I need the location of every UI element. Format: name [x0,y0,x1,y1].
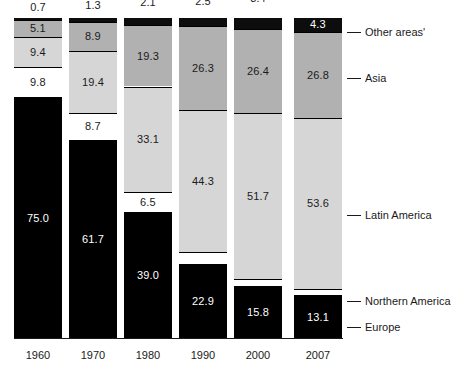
segment-latin-america-1970: 19.4 [69,51,117,113]
value-label-latin-america-2000: 51.7 [247,191,269,202]
value-label-europe-2007: 13.1 [307,312,329,323]
legend-label-2: Latin America [365,210,432,221]
segment-latin-america-1990: 44.3 [179,110,227,252]
segment-northern-america-2000 [234,279,282,288]
legend-label-3: Northern America [365,296,451,307]
segment-asia-1970: 8.9 [69,22,117,50]
segment-asia-1960: 5.1 [14,20,62,36]
legend-leader-line-2 [347,215,361,216]
x-axis-line [14,338,343,339]
segment-northern-america-2007 [294,289,342,296]
segment-latin-america-2007: 53.6 [294,118,342,290]
segment-asia-1980: 19.3 [124,25,172,87]
value-label-europe-1980: 39.0 [137,270,159,281]
segment-europe-1970: 61.7 [69,141,117,338]
value-label-asia-1990: 26.3 [192,63,214,74]
legend-label-4: Europe [365,322,400,333]
segment-other-areas-2000 [234,18,282,29]
segment-europe-1980: 39.0 [124,213,172,338]
segment-asia-2007: 26.8 [294,32,342,118]
value-label-latin-america-1970: 19.4 [82,77,104,88]
value-label-latin-america-1960: 9.4 [30,47,46,58]
segment-asia-1990: 26.3 [179,26,227,110]
segment-northern-america-1960: 9.8 [14,67,62,98]
segment-latin-america-2000: 51.7 [234,113,282,278]
legend-label-0: Other areas' [365,27,425,38]
bar-2007: 13.153.626.84.3 [294,18,342,338]
segment-asia-2000: 26.4 [234,29,282,113]
legend-leader-line-4 [347,327,361,328]
segment-other-areas-2007: 4.3 [294,18,342,32]
value-label-latin-america-1980: 33.1 [137,134,159,145]
value-label-asia-2007: 26.8 [307,70,329,81]
x-axis-tick-label-1990: 1990 [179,350,227,361]
x-axis-tick-label-1970: 1970 [69,350,117,361]
segment-europe-2000: 15.8 [234,287,282,338]
value-label-asia-1970: 8.9 [85,31,101,42]
value-label-europe-1970: 61.7 [82,234,104,245]
x-axis-tick-label-2007: 2007 [294,350,342,361]
segment-other-areas-1960 [14,18,62,20]
segment-europe-1960: 75.0 [14,98,62,338]
bar-1980: 39.06.533.119.3 [124,18,172,338]
value-label-other-areas-1970: 1.3 [69,0,117,11]
segment-latin-america-1960: 9.4 [14,37,62,67]
value-label-asia-1960: 5.1 [30,23,46,34]
segment-other-areas-1970 [69,18,117,22]
segment-europe-2007: 13.1 [294,296,342,338]
segment-latin-america-1980: 33.1 [124,87,172,193]
segment-other-areas-1980 [124,18,172,25]
segment-northern-america-1980: 6.5 [124,192,172,213]
value-label-latin-america-1990: 44.3 [192,176,214,187]
segment-northern-america-1990 [179,252,227,265]
legend-leader-line-0 [347,32,361,33]
bar-2000: 15.851.726.4 [234,18,282,338]
value-label-other-areas-1960: 0.7 [14,2,62,13]
legend-leader-line-3 [347,301,361,302]
value-label-europe-1990: 22.9 [192,296,214,307]
value-label-northern-america-1960: 9.8 [30,77,46,88]
value-label-asia-1980: 19.3 [137,51,159,62]
value-label-other-areas-1990: 2.5 [179,0,227,7]
value-label-other-areas-2007: 4.3 [310,19,326,30]
bar-1990: 22.944.326.3 [179,18,227,338]
value-label-europe-1960: 75.0 [27,213,49,224]
x-axis-tick-label-1960: 1960 [14,350,62,361]
legend-label-1: Asia [365,73,386,84]
value-label-northern-america-1980: 6.5 [140,197,156,208]
bar-1960: 75.09.89.45.1 [14,18,62,338]
segment-northern-america-1970: 8.7 [69,113,117,141]
x-axis-tick-label-2000: 2000 [234,350,282,361]
value-label-northern-america-1970: 8.7 [85,121,101,132]
bar-1970: 61.78.719.48.9 [69,18,117,338]
segment-other-areas-1990 [179,18,227,26]
value-label-latin-america-2007: 53.6 [307,198,329,209]
x-axis-tick-label-1980: 1980 [124,350,172,361]
value-label-asia-2000: 26.4 [247,66,269,77]
legend-leader-line-1 [347,78,361,79]
value-label-europe-2000: 15.8 [247,307,269,318]
value-label-other-areas-1980: 2.1 [124,0,172,8]
segment-europe-1990: 22.9 [179,265,227,338]
value-label-other-areas-2000: 3.4 [234,0,282,4]
